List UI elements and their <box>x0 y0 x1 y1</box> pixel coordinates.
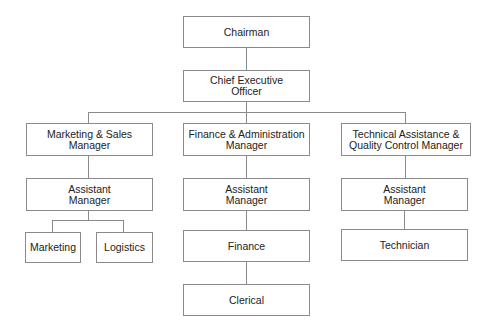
connector-ms-manager-up <box>88 112 89 123</box>
node-assistant-manager-ta: AssistantManager <box>341 178 468 211</box>
node-label: Technician <box>380 240 430 251</box>
connector-marketing-up <box>52 220 53 232</box>
node-finance-admin-manager: Finance & AdministrationManager <box>183 123 310 156</box>
node-assistant-manager-fa: AssistantManager <box>183 178 310 211</box>
connector-logistics-up <box>123 220 124 232</box>
connector-ta-manager-up <box>405 112 406 123</box>
node-chairman: Chairman <box>183 16 310 48</box>
node-label: Logistics <box>104 242 145 253</box>
connector-finance-clerical <box>246 261 247 284</box>
connector-ms-asst-down <box>88 210 89 220</box>
node-label-line2: Manager <box>69 194 110 206</box>
connector-fa-asst <box>246 155 247 178</box>
node-finance: Finance <box>183 230 310 262</box>
node-label: Finance <box>228 241 265 252</box>
connector-ms-asst <box>88 155 89 178</box>
node-label-line2: Quality Control Manager <box>349 139 463 151</box>
connector-ms-sub-horizontal <box>52 220 124 221</box>
connector-chairman-ceo <box>246 47 247 70</box>
node-label-line2: Manager <box>226 139 267 151</box>
node-label-line2: Manager <box>226 194 267 206</box>
node-label-line2: Manager <box>69 139 110 151</box>
connector-ta-asst <box>405 155 406 178</box>
node-label-line2: Officer <box>231 85 262 97</box>
node-label: Chairman <box>224 27 270 38</box>
connector-managers-horizontal <box>88 112 406 113</box>
node-label: Marketing <box>30 242 76 253</box>
node-clerical: Clerical <box>183 284 310 316</box>
node-technician: Technician <box>341 229 468 261</box>
node-marketing-sales-manager: Marketing & SalesManager <box>26 123 153 156</box>
connector-fa-asst-finance <box>246 210 247 230</box>
connector-ta-asst-technician <box>404 210 405 229</box>
node-marketing: Marketing <box>25 232 81 263</box>
node-label-line2: Manager <box>384 194 425 206</box>
node-assistant-manager-ms: AssistantManager <box>26 178 153 211</box>
node-technical-qc-manager: Technical Assistance &Quality Control Ma… <box>341 123 471 156</box>
node-ceo: Chief ExecutiveOfficer <box>183 70 310 102</box>
node-logistics: Logistics <box>96 232 153 263</box>
node-label: Clerical <box>229 295 264 306</box>
